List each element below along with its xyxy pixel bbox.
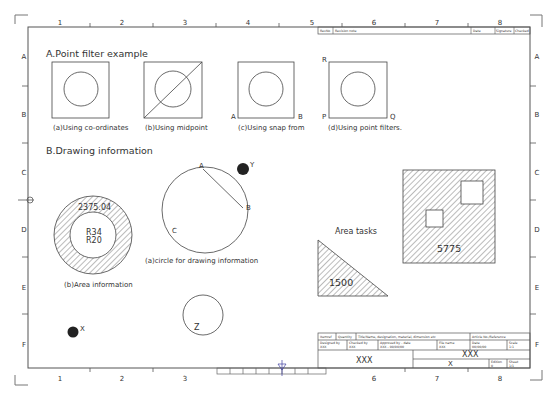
section-b-title: B.Drawing information (46, 145, 153, 156)
area-tasks-title: Area tasks (335, 227, 377, 236)
row-label-d-right: D (534, 226, 539, 234)
panel-c-caption: (c)Using snap from (238, 124, 305, 132)
triangle-area-value: 1500 (329, 277, 353, 288)
col-label-3-bottom: 3 (183, 375, 187, 383)
col-label-7-bottom: 7 (435, 375, 439, 383)
col-label-1: 1 (58, 19, 62, 27)
revno-header: RevNo (320, 29, 330, 33)
row-label-f-right: F (535, 341, 539, 349)
point-r-label: R (322, 56, 327, 64)
tb-quantity: Quantity (338, 335, 352, 339)
col-label-6: 6 (372, 19, 377, 27)
point-q-label: Q (390, 113, 396, 121)
col-label-1-bottom: 1 (58, 375, 62, 383)
tb-item-ref: Itemref (320, 335, 332, 339)
point-x-label: X (80, 325, 85, 333)
circle-info-caption: (a)circle for drawing information (145, 257, 258, 265)
circle-point-b: B (246, 204, 251, 212)
drawing-sheet: 1 2 3 4 5 6 7 8 1 2 3 6 7 8 A B C D E F … (0, 0, 557, 402)
panel-d-caption: (d)Using point filters. (328, 124, 402, 132)
panel-a-caption: (a)Using co-ordinates (53, 124, 129, 132)
circle-z (183, 295, 223, 335)
panel-c-snap-from (238, 62, 294, 118)
point-a-label: A (231, 113, 236, 121)
col-label-6-bottom: 6 (372, 375, 377, 383)
tb-title-names: Title/Name, designation, material, dimen… (357, 335, 436, 339)
circle-z-label: Z (194, 323, 200, 332)
row-label-c-right: C (535, 169, 540, 177)
tb-title: XXX (462, 350, 479, 359)
panel-d-point-filters (329, 62, 387, 118)
date-header: Date (473, 29, 481, 33)
col-label-2-bottom: 2 (120, 375, 124, 383)
row-label-e: E (22, 284, 26, 292)
tb-designed-value: XXX (320, 345, 327, 349)
area-info-caption: (b)Area information (64, 281, 133, 289)
tb-drawing-no: X (448, 360, 453, 368)
square-area-value: 5775 (437, 243, 461, 254)
col-label-2: 2 (120, 19, 124, 27)
col-label-4: 4 (246, 19, 251, 27)
row-label-a-right: A (535, 53, 540, 61)
panel-b-midpoint (144, 62, 202, 118)
circle-point-c: C (172, 227, 177, 235)
revision-block: RevNo Revision note Date Signature Check… (318, 27, 530, 34)
point-p-label: P (322, 113, 326, 121)
section-a-title: A.Point filter example (46, 48, 148, 59)
tb-date-value: 00/00/00 (472, 345, 486, 349)
row-label-f: F (22, 341, 26, 349)
col-label-3: 3 (183, 19, 187, 27)
panel-b-caption: (b)Using midpoint (145, 124, 208, 132)
row-label-d: D (21, 226, 26, 234)
row-label-e-right: E (535, 284, 539, 292)
area-value: 2375.04 (78, 203, 111, 212)
tb-approved-value: XXX - 00/00/00 (380, 345, 404, 349)
row-label-c: C (22, 169, 27, 177)
centering-mark-left (18, 197, 34, 203)
row-label-b: B (22, 111, 27, 119)
row-label-b-right: B (535, 111, 540, 119)
tb-edition-value: 0 (491, 364, 493, 368)
tb-company: XXX (356, 356, 373, 365)
point-y-dot (237, 163, 249, 175)
revision-note-header: Revision note (335, 29, 357, 33)
inner-radius: R20 (86, 236, 102, 245)
point-y-label: Y (249, 161, 255, 169)
circle-abc (162, 167, 248, 253)
scale-bar (217, 360, 326, 376)
tb-filename-value: XXX (439, 345, 446, 349)
signature-header: Signature (496, 29, 511, 33)
tb-scale-value: 1:1 (509, 345, 514, 349)
checked-header: Checked (515, 29, 529, 33)
circle-point-a: A (199, 162, 204, 170)
row-label-a: A (22, 53, 27, 61)
col-label-5: 5 (310, 19, 314, 27)
point-b-label: B (298, 113, 303, 121)
col-label-8: 8 (498, 19, 502, 27)
tb-sheet-value: 1/1 (509, 364, 514, 368)
tb-article-ref: Article No./Reference (472, 335, 506, 339)
col-label-7: 7 (435, 19, 439, 27)
panel-a-coordinates (52, 62, 109, 118)
point-x-dot (68, 327, 79, 338)
tb-checked-value: XXX (349, 345, 356, 349)
col-label-8-bottom: 8 (498, 375, 502, 383)
